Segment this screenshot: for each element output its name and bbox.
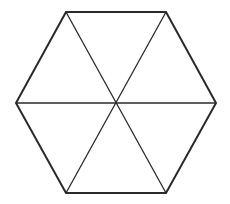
diagram-canvas [0,0,230,204]
hexagon-diagram [0,0,230,204]
